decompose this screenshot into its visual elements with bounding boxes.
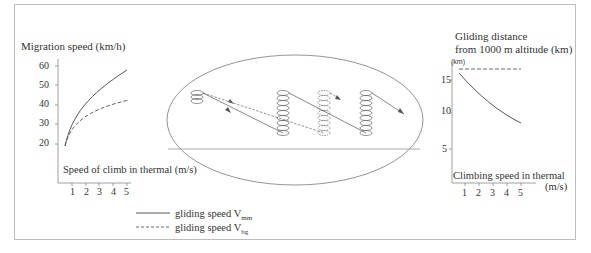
left-chart-axes bbox=[55, 59, 131, 186]
spiral-1 bbox=[277, 91, 289, 136]
glide-path-solid bbox=[203, 93, 404, 133]
diagram-graphics bbox=[0, 0, 591, 253]
right-curve-vmm bbox=[459, 73, 521, 123]
spiral-3 bbox=[360, 91, 372, 136]
thermal-glide-illustration bbox=[167, 55, 423, 185]
spiral-start bbox=[191, 91, 203, 104]
left-curve-vmm bbox=[65, 70, 127, 146]
right-chart-axes bbox=[449, 62, 536, 186]
arrow-heads bbox=[225, 95, 404, 114]
left-curve-vbg bbox=[65, 100, 129, 146]
